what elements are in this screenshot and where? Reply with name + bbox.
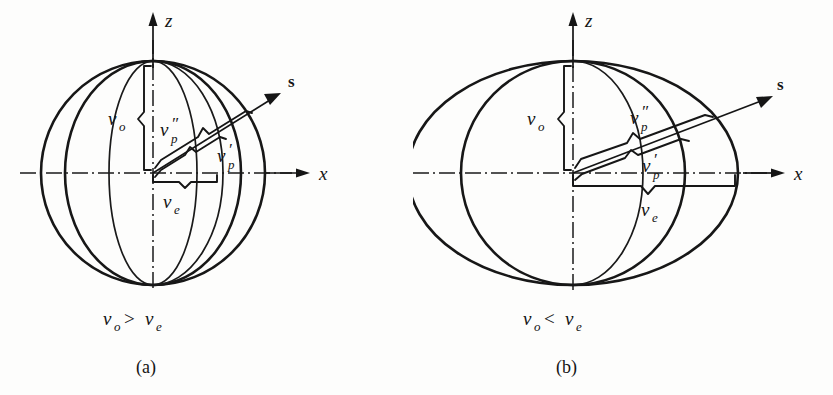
svg-text:v: v [630,107,639,128]
x-axis-label-b: x [793,163,803,184]
label-vp-prime-a: v p ′ [217,140,235,172]
z-axis-a [149,12,158,288]
svg-text:v: v [160,119,169,140]
brace-v-o-a [138,66,151,170]
svg-text:v: v [103,308,112,329]
svg-text:e: e [174,202,180,217]
svg-text:v: v [108,108,117,129]
svg-text:v: v [527,108,536,129]
z-axis-label-a: z [164,10,173,31]
label-vp-double-prime-b: v p ″ [630,102,649,134]
svg-text:e: e [652,210,658,225]
svg-text:<: < [544,308,555,329]
svg-text:p: p [652,167,660,182]
z-axis-arrowhead-b [569,12,578,26]
panel-b-canvas: z x s v o v p ″ v p ′ v e [413,0,833,395]
svg-text:v: v [565,308,574,329]
svg-text:o: o [534,319,541,334]
panel-label-a: (a) [136,357,156,378]
svg-text:v: v [642,155,651,176]
svg-text:′: ′ [653,150,657,169]
relation-label-a: v o > v e [103,308,162,334]
x-axis-b [413,169,785,178]
svg-text:e: e [156,319,162,334]
svg-text:p: p [170,131,178,146]
svg-text:v: v [145,308,154,329]
x-axis-label-a: x [318,163,328,184]
ray-s-label-a: s [288,72,295,91]
z-axis-arrowhead-a [149,12,158,26]
panel-label-b: (b) [556,357,577,378]
x-axis-a [20,169,310,178]
svg-text:v: v [641,199,650,220]
ray-s-arrowhead-b [756,96,773,108]
ray-s-b [573,96,773,173]
figure-root: z x s v o v p ″ v p ′ v e [0,0,833,395]
svg-text:o: o [538,119,545,134]
svg-text:v: v [163,191,172,212]
svg-text:v: v [523,308,532,329]
svg-text:o: o [114,319,121,334]
svg-text:″: ″ [641,102,649,121]
svg-text:o: o [119,119,126,134]
z-axis-label-b: z [584,10,593,31]
x-axis-arrowhead-a [296,169,310,178]
svg-text:p: p [640,119,648,134]
svg-text:″: ″ [171,114,179,133]
svg-text:>: > [124,308,135,329]
ray-s-arrowhead-a [264,93,281,105]
ray-s-label-b: s [777,75,784,94]
label-v-o-b: v o [527,108,545,134]
svg-text:p: p [227,157,235,172]
panel-a-canvas: z x s v o v p ″ v p ′ v e [0,0,420,395]
svg-text:e: e [576,319,582,334]
label-v-e-b: v e [641,199,658,225]
brace-vp-prime-b [575,139,689,180]
label-vp-double-prime-a: v p ″ [160,114,179,146]
svg-text:′: ′ [228,140,232,159]
svg-text:v: v [217,145,226,166]
label-v-e-a: v e [163,191,180,217]
panel-a: z x s v o v p ″ v p ′ v e [0,0,420,395]
label-vp-prime-b: v p ′ [642,150,660,182]
brace-v-o-b [558,66,571,170]
z-axis-b [569,12,578,290]
brace-v-e-a [153,175,217,188]
x-axis-arrowhead-b [771,169,785,178]
label-v-o-a: v o [108,108,126,134]
relation-label-b: v o < v e [523,308,582,334]
panel-b: z x s v o v p ″ v p ′ v e [413,0,833,395]
